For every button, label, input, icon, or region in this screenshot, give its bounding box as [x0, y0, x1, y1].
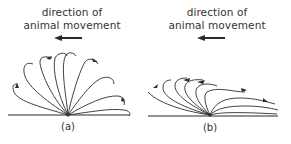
- direction-arrow-left-icon: [54, 35, 82, 41]
- origin-point: [66, 113, 69, 116]
- loop-direction-marks: [15, 56, 125, 102]
- movement-loops: [13, 53, 130, 116]
- movement-loops: [148, 78, 278, 115]
- direction-arrow-left-icon: [197, 35, 225, 41]
- origin-point: [208, 113, 211, 116]
- panel-a: direction of animal movement: [0, 0, 145, 144]
- panel-b-label: (b): [195, 122, 225, 133]
- panel-b: direction of animal movement: [145, 0, 291, 144]
- panel-a-label: (a): [53, 121, 83, 132]
